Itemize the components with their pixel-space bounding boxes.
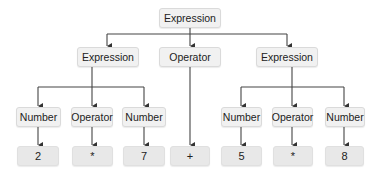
number-node-left-1: Number	[16, 107, 61, 127]
operator-node-right: Operator	[272, 107, 313, 127]
right-expression-node: Expression	[256, 47, 318, 67]
leaf-operator-plus: +	[170, 146, 210, 166]
leaf-operator-multiply-left: *	[72, 146, 113, 166]
middle-operator-node: Operator	[159, 47, 221, 67]
number-node-right-1: Number	[221, 107, 262, 127]
leaf-value-7: 7	[123, 146, 165, 166]
leaf-value-5: 5	[221, 146, 262, 166]
left-expression-node: Expression	[77, 47, 139, 67]
operator-node-left: Operator	[71, 107, 113, 127]
leaf-value-8: 8	[325, 146, 364, 166]
number-node-left-2: Number	[122, 107, 166, 127]
leaf-operator-multiply-right: *	[273, 146, 313, 166]
root-expression-node: Expression	[159, 8, 221, 28]
number-node-right-2: Number	[325, 107, 365, 127]
leaf-value-2: 2	[17, 146, 59, 166]
